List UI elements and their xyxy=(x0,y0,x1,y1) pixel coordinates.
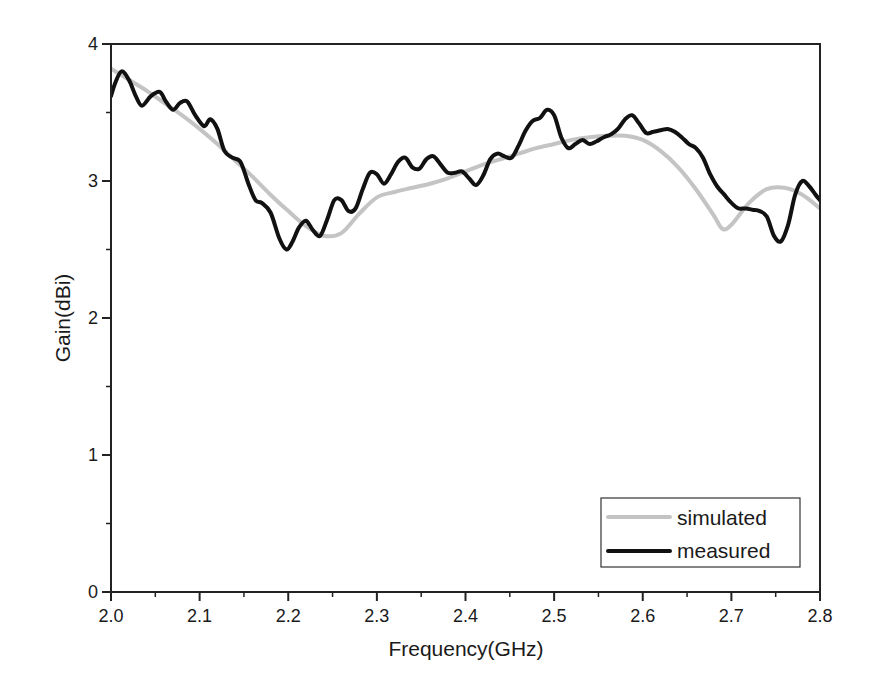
chart-background xyxy=(0,0,873,693)
x-tick-label: 2.2 xyxy=(276,606,301,626)
y-tick-label: 4 xyxy=(88,34,98,54)
x-tick-label: 2.5 xyxy=(542,606,567,626)
x-tick-label: 2.7 xyxy=(719,606,744,626)
y-axis-title: Gain(dBi) xyxy=(51,274,74,363)
y-tick-label: 0 xyxy=(88,582,98,602)
x-tick-label: 2.0 xyxy=(98,606,123,626)
x-axis-title: Frequency(GHz) xyxy=(388,637,543,660)
y-tick-label: 1 xyxy=(88,445,98,465)
x-tick-label: 2.8 xyxy=(807,606,832,626)
y-tick-label: 2 xyxy=(88,308,98,328)
x-tick-label: 2.6 xyxy=(630,606,655,626)
x-tick-label: 2.4 xyxy=(453,606,478,626)
gain-vs-frequency-chart: 2.02.12.22.32.42.52.62.72.8 01234 Freque… xyxy=(0,0,873,693)
legend-label-simulated: simulated xyxy=(677,506,767,529)
x-tick-label: 2.3 xyxy=(364,606,389,626)
legend-label-measured: measured xyxy=(677,539,770,562)
legend: simulated measured xyxy=(601,498,800,567)
y-tick-label: 3 xyxy=(88,171,98,191)
x-tick-label: 2.1 xyxy=(187,606,212,626)
